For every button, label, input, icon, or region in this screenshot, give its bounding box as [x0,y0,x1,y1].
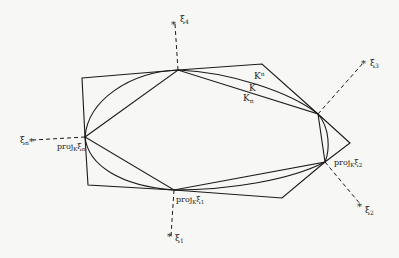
star-xi1-icon: * [167,231,172,242]
label-xin: ξn [20,135,29,146]
label-proj-xi2: projKξ2 [334,158,362,168]
label-xi2: ξ2 [365,205,374,216]
label-xi4: ξ4 [180,14,189,25]
label-Kn-lower: Kn [243,93,254,104]
label-proj-xin: projKξn [57,142,86,152]
ray-xi1 [171,190,174,236]
ray-xi2 [325,162,361,205]
convex-approximation-diagram: * * * * * ξ4 ξ3 ξn ξ1 ξ2 Kn K Kn projKξn… [0,0,399,258]
star-xi2-icon: * [357,201,362,212]
label-xi1: ξ1 [175,233,184,244]
label-Kn-upper: Kn [254,70,265,81]
outer-polygon-Kn-upper [82,64,350,198]
label-xi3: ξ3 [370,58,379,69]
label-proj-xi1: projKξ1 [176,195,204,205]
convex-body-K [85,70,328,190]
star-xi3-icon: * [361,58,366,69]
star-xi4-icon: * [171,19,176,30]
ray-xi3 [318,62,364,114]
label-K: K [249,83,256,93]
star-xin-icon: * [29,136,34,147]
ray-xin [33,137,85,140]
ray-xi4 [175,24,178,70]
